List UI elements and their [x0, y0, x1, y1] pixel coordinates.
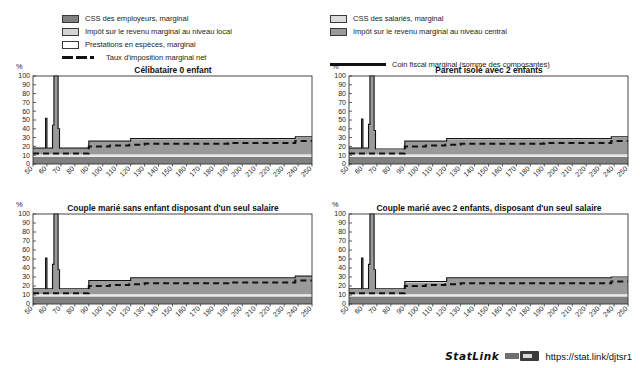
svg-text:100: 100	[334, 72, 346, 79]
svg-text:120: 120	[434, 165, 447, 178]
svg-text:70: 70	[338, 99, 346, 106]
svg-text:90: 90	[395, 305, 406, 316]
legend-column-left: CSS des employeurs, marginal Impôt sur l…	[62, 13, 330, 61]
svg-text:140: 140	[462, 165, 475, 178]
y-axis-unit-label: %	[332, 200, 339, 209]
svg-text:80: 80	[338, 228, 346, 235]
svg-text:140: 140	[146, 165, 159, 178]
chart-title: Parent isolé avec 2 enfants	[348, 65, 630, 75]
svg-text:200: 200	[546, 305, 559, 318]
svg-text:20: 20	[338, 143, 346, 150]
svg-text:20: 20	[22, 282, 30, 289]
chart-title: Célibataire 0 enfant	[32, 65, 314, 75]
svg-text:100: 100	[406, 165, 419, 178]
svg-text:130: 130	[448, 305, 461, 318]
svg-text:210: 210	[244, 305, 257, 318]
svg-text:30: 30	[338, 134, 346, 141]
svg-text:10: 10	[338, 291, 346, 298]
svg-text:40: 40	[338, 264, 346, 271]
svg-text:100: 100	[90, 305, 103, 318]
svg-text:190: 190	[532, 305, 545, 318]
svg-text:70: 70	[367, 165, 378, 176]
svg-text:30: 30	[338, 273, 346, 280]
legend-label: Impôt sur le revenu marginal au niveau c…	[353, 26, 507, 37]
svg-text:200: 200	[230, 305, 243, 318]
legend-item-employer-scc: CSS des employeurs, marginal	[62, 13, 330, 24]
chart-title: Couple marié sans enfant disposant d'un …	[32, 203, 314, 213]
svg-text:50: 50	[339, 305, 350, 316]
svg-text:50: 50	[22, 116, 30, 123]
svg-text:70: 70	[338, 237, 346, 244]
chart-plot-area: 0102030405060708090100506070809010011012…	[322, 200, 634, 332]
svg-text:50: 50	[338, 116, 346, 123]
svg-text:180: 180	[202, 165, 215, 178]
svg-text:220: 220	[574, 165, 587, 178]
chart-plot-area: 0102030405060708090100506070809010011012…	[6, 200, 318, 332]
svg-text:70: 70	[22, 99, 30, 106]
chart-panel-3: % Couple marié avec 2 enfants, disposant…	[322, 200, 634, 332]
svg-text:60: 60	[353, 165, 364, 176]
svg-text:70: 70	[22, 237, 30, 244]
svg-text:90: 90	[79, 305, 90, 316]
y-axis-unit-label: %	[16, 62, 23, 71]
svg-text:250: 250	[299, 305, 312, 318]
svg-text:90: 90	[338, 81, 346, 88]
svg-text:220: 220	[574, 305, 587, 318]
svg-text:160: 160	[490, 165, 503, 178]
svg-text:90: 90	[338, 219, 346, 226]
svg-text:50: 50	[339, 165, 350, 176]
svg-text:60: 60	[22, 246, 30, 253]
svg-text:120: 120	[434, 305, 447, 318]
svg-text:240: 240	[602, 305, 615, 318]
svg-text:140: 140	[462, 305, 475, 318]
svg-text:170: 170	[504, 305, 517, 318]
medium-gray-swatch-icon	[330, 28, 347, 36]
svg-text:110: 110	[105, 305, 118, 318]
svg-text:150: 150	[476, 165, 489, 178]
svg-text:20: 20	[338, 282, 346, 289]
svg-text:100: 100	[334, 210, 346, 217]
chart-legend: CSS des employeurs, marginal Impôt sur l…	[62, 13, 582, 61]
svg-text:250: 250	[299, 165, 312, 178]
svg-text:240: 240	[602, 165, 615, 178]
svg-text:80: 80	[65, 165, 76, 176]
svg-text:140: 140	[146, 305, 159, 318]
svg-text:60: 60	[37, 305, 48, 316]
svg-text:230: 230	[588, 165, 601, 178]
svg-text:80: 80	[65, 305, 76, 316]
svg-text:60: 60	[338, 108, 346, 115]
figure-root: CSS des employeurs, marginal Impôt sur l…	[0, 0, 640, 368]
chart-panel-0: % Célibataire 0 enfant 01020304050607080…	[6, 62, 318, 192]
svg-text:50: 50	[22, 255, 30, 262]
svg-text:130: 130	[132, 305, 145, 318]
svg-text:80: 80	[381, 165, 392, 176]
svg-text:50: 50	[338, 255, 346, 262]
svg-text:10: 10	[338, 152, 346, 159]
svg-text:150: 150	[160, 305, 173, 318]
svg-text:190: 190	[216, 165, 229, 178]
light-gray-swatch-icon	[330, 15, 347, 23]
chart-plot-area: 0102030405060708090100506070809010011012…	[322, 62, 634, 192]
chart-panel-2: % Couple marié sans enfant disposant d'u…	[6, 200, 318, 332]
svg-text:120: 120	[118, 165, 131, 178]
chart-title: Couple marié avec 2 enfants, disposant d…	[348, 203, 630, 213]
svg-text:80: 80	[381, 305, 392, 316]
legend-label: Impôt sur le revenu marginal au niveau l…	[85, 26, 232, 37]
svg-text:60: 60	[338, 246, 346, 253]
svg-text:180: 180	[202, 305, 215, 318]
legend-label: CSS des employeurs, marginal	[85, 13, 188, 24]
dark-gray-swatch-icon	[62, 15, 79, 23]
svg-text:210: 210	[560, 305, 573, 318]
svg-text:10: 10	[22, 152, 30, 159]
statlink-url[interactable]: https://stat.link/djtsr1	[545, 351, 632, 362]
svg-text:160: 160	[174, 305, 187, 318]
svg-text:90: 90	[22, 219, 30, 226]
svg-text:250: 250	[615, 305, 628, 318]
svg-text:90: 90	[395, 165, 406, 176]
statlink-label: StatLink	[445, 350, 499, 362]
svg-text:160: 160	[490, 305, 503, 318]
legend-item-employee-scc: CSS des salariés, marginal	[330, 13, 580, 24]
svg-text:60: 60	[353, 305, 364, 316]
svg-text:240: 240	[286, 165, 299, 178]
svg-text:130: 130	[448, 165, 461, 178]
